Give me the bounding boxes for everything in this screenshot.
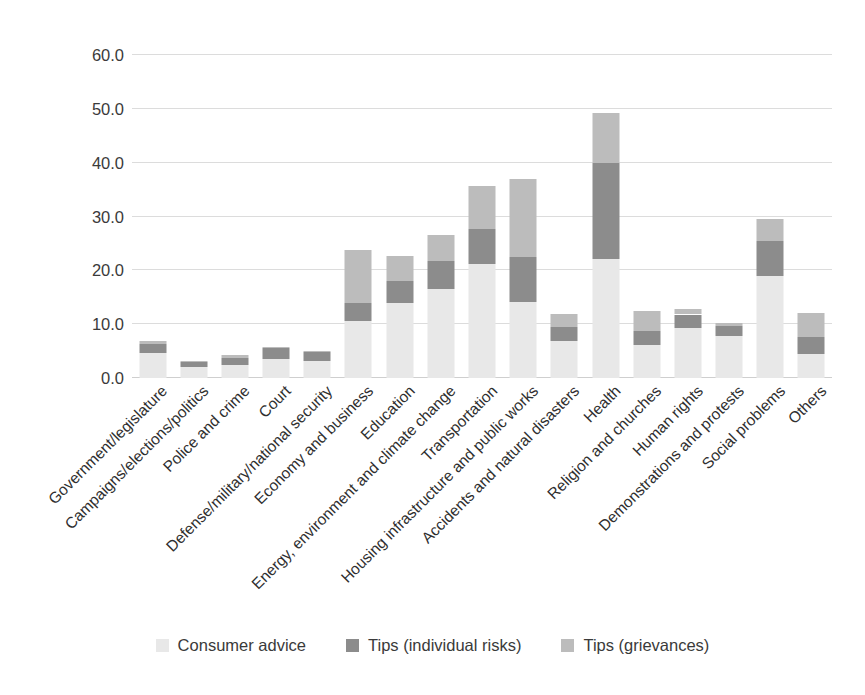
bar-segment[interactable] (427, 261, 454, 289)
bar-slot (379, 55, 420, 378)
bar-stack[interactable] (221, 355, 248, 378)
bar-segment[interactable] (633, 311, 660, 330)
bar-segment[interactable] (304, 351, 331, 352)
legend-item[interactable]: Tips (individual risks) (346, 636, 521, 655)
bar-stack[interactable] (180, 361, 207, 378)
bar-stack[interactable] (757, 219, 784, 378)
bar-segment[interactable] (633, 331, 660, 345)
bar-segment[interactable] (510, 257, 537, 302)
bar-segment[interactable] (592, 163, 619, 259)
bar-segment[interactable] (592, 259, 619, 379)
legend-label: Tips (individual risks) (368, 636, 521, 655)
bar-segment[interactable] (633, 345, 660, 378)
x-axis-tick-label: Court (255, 382, 294, 421)
bar-stack[interactable] (551, 314, 578, 378)
bar-slot (338, 55, 379, 378)
bar-segment[interactable] (263, 347, 290, 349)
bar-slot (708, 55, 749, 378)
bar-segment[interactable] (263, 359, 290, 378)
legend-swatch-icon (346, 639, 359, 652)
bar-slot (297, 55, 338, 378)
bar-segment[interactable] (551, 327, 578, 342)
bar-segment[interactable] (427, 289, 454, 378)
bar-stack[interactable] (345, 250, 372, 378)
bar-segment[interactable] (221, 355, 248, 358)
bar-slot (585, 55, 626, 378)
bar-segment[interactable] (427, 235, 454, 260)
bar-stack[interactable] (798, 313, 825, 378)
bar-segment[interactable] (386, 281, 413, 303)
bar-segment[interactable] (221, 365, 248, 378)
bar-stack[interactable] (716, 323, 743, 378)
legend-label: Tips (grievances) (583, 636, 709, 655)
bar-slot (173, 55, 214, 378)
bar-segment[interactable] (551, 341, 578, 378)
y-axis: 0.010.020.030.040.050.060.0 (58, 55, 124, 378)
bar-stack[interactable] (468, 186, 495, 378)
bar-segment[interactable] (510, 302, 537, 378)
bar-slot (750, 55, 791, 378)
bar-segment[interactable] (551, 314, 578, 326)
bar-segment[interactable] (468, 186, 495, 229)
bar-segment[interactable] (180, 367, 207, 378)
bar-segment[interactable] (304, 352, 331, 361)
bar-segment[interactable] (468, 264, 495, 378)
bar-segment[interactable] (674, 309, 701, 315)
legend-swatch-icon (156, 639, 169, 652)
bar-slot (214, 55, 255, 378)
bar-stack[interactable] (386, 256, 413, 378)
bar-segment[interactable] (674, 315, 701, 329)
chart-legend: Consumer adviceTips (individual risks)Ti… (0, 636, 865, 655)
bar-stack[interactable] (427, 235, 454, 378)
bar-stack[interactable] (592, 113, 619, 378)
x-axis: Government/legislatureCampaigns/election… (132, 382, 832, 612)
bar-slot (503, 55, 544, 378)
bar-slot (667, 55, 708, 378)
bar-segment[interactable] (386, 256, 413, 281)
legend-item[interactable]: Tips (grievances) (561, 636, 709, 655)
bar-stack[interactable] (510, 179, 537, 378)
bar-segment[interactable] (221, 358, 248, 365)
bar-segment[interactable] (386, 303, 413, 378)
bar-segment[interactable] (180, 362, 207, 367)
y-axis-tick-label: 30.0 (62, 207, 124, 226)
bar-segment[interactable] (716, 336, 743, 378)
bar-segment[interactable] (304, 361, 331, 378)
bar-segment[interactable] (180, 361, 207, 362)
bar-segment[interactable] (757, 241, 784, 276)
bar-slot (626, 55, 667, 378)
bar-segment[interactable] (510, 179, 537, 257)
y-axis-tick-label: 10.0 (62, 315, 124, 334)
stacked-bar-chart: 0.010.020.030.040.050.060.0 Government/l… (0, 0, 865, 695)
y-axis-tick-label: 50.0 (62, 99, 124, 118)
bar-segment[interactable] (139, 353, 166, 378)
bar-stack[interactable] (633, 311, 660, 378)
bar-segment[interactable] (798, 337, 825, 355)
bar-segment[interactable] (345, 303, 372, 322)
bar-slot (791, 55, 832, 378)
bar-stack[interactable] (674, 309, 701, 378)
bar-segment[interactable] (716, 326, 743, 336)
bar-segment[interactable] (674, 328, 701, 378)
bar-segment[interactable] (757, 276, 784, 378)
bar-segment[interactable] (263, 348, 290, 358)
legend-item[interactable]: Consumer advice (156, 636, 306, 655)
bar-slot (544, 55, 585, 378)
bar-segment[interactable] (139, 344, 166, 353)
bar-slot (461, 55, 502, 378)
bar-stack[interactable] (304, 351, 331, 378)
y-axis-tick-label: 0.0 (62, 369, 124, 388)
bar-stack[interactable] (139, 341, 166, 378)
bar-segment[interactable] (798, 313, 825, 337)
bar-segment[interactable] (468, 229, 495, 264)
bar-segment[interactable] (139, 341, 166, 344)
bar-segment[interactable] (798, 354, 825, 378)
bar-stack[interactable] (263, 347, 290, 378)
y-axis-tick-label: 60.0 (62, 46, 124, 65)
bar-segment[interactable] (345, 250, 372, 302)
bar-segment[interactable] (345, 321, 372, 378)
bar-segment[interactable] (716, 323, 743, 326)
bar-segment[interactable] (592, 113, 619, 163)
bar-slot (132, 55, 173, 378)
bar-segment[interactable] (757, 219, 784, 241)
